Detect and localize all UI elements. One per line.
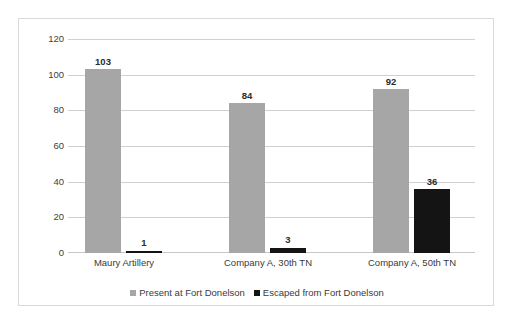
bar-escaped-company-a-50th-tn[interactable] <box>414 189 450 253</box>
bar-escaped-company-a-30th-tn[interactable] <box>270 248 306 253</box>
legend-swatch-present-icon <box>130 290 136 296</box>
bar-value-present-company-a-50th-tn: 92 <box>361 76 421 87</box>
bar-value-escaped-maury-artillery: 1 <box>114 237 174 248</box>
bar-value-present-company-a-30th-tn: 84 <box>217 90 277 101</box>
legend-item-present[interactable]: Present at Fort Donelson <box>130 287 245 298</box>
y-tick-label: 80 <box>22 105 64 115</box>
y-tick-label: 20 <box>22 212 64 222</box>
y-tick-label: 60 <box>22 141 64 151</box>
legend-swatch-escaped-icon <box>254 290 260 296</box>
x-tick-label-company-a-30th-tn: Company A, 30th TN <box>198 257 338 269</box>
y-axis: 0 20 40 60 80 100 120 <box>19 39 64 253</box>
gridline-120 <box>68 39 475 40</box>
chart-legend: Present at Fort Donelson Escaped from Fo… <box>19 287 495 298</box>
bar-chart: 0 20 40 60 80 100 120 <box>0 0 511 324</box>
bar-value-escaped-company-a-30th-tn: 3 <box>258 234 318 245</box>
legend-label-present: Present at Fort Donelson <box>139 287 245 298</box>
chart-plot-frame: 0 20 40 60 80 100 120 <box>18 18 494 306</box>
bar-value-escaped-company-a-50th-tn: 36 <box>402 176 462 187</box>
legend-label-escaped: Escaped from Fort Donelson <box>263 287 384 298</box>
x-tick-label-maury-artillery: Maury Artillery <box>54 257 194 269</box>
bar-present-company-a-50th-tn[interactable] <box>373 89 409 253</box>
legend-item-escaped[interactable]: Escaped from Fort Donelson <box>254 287 384 298</box>
x-tick-label-company-a-50th-tn: Company A, 50th TN <box>342 257 482 269</box>
bar-present-company-a-30th-tn[interactable] <box>229 103 265 253</box>
gridline-60 <box>68 146 475 147</box>
bar-escaped-maury-artillery[interactable] <box>126 251 162 254</box>
gridline-80 <box>68 110 475 111</box>
y-tick-label: 40 <box>22 177 64 187</box>
y-tick-label: 120 <box>22 34 64 44</box>
bar-present-maury-artillery[interactable] <box>85 69 121 253</box>
plot-area: 103 1 84 3 92 36 <box>68 39 475 253</box>
bar-value-present-maury-artillery: 103 <box>73 56 133 67</box>
y-tick-label: 100 <box>22 70 64 80</box>
